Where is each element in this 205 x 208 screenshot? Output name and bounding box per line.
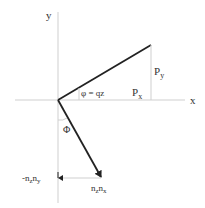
px-label: Px: [132, 86, 142, 101]
y-axis-label: y: [46, 9, 52, 21]
big-phi-arc: [58, 118, 67, 120]
x-axis-label: x: [190, 94, 196, 106]
diagram-canvas: y x Py Px φ = qz Φ -nzny nznx: [0, 0, 205, 208]
vector-diagram: y x Py Px φ = qz Φ -nzny nznx: [0, 0, 205, 208]
ny-component-label: -nzny: [22, 173, 41, 185]
big-phi-label: Φ: [63, 124, 70, 135]
nx-component-label: nznx: [91, 183, 107, 195]
n-vector: [58, 100, 101, 177]
phi-angle-label: φ = qz: [81, 88, 104, 98]
py-label: Py: [154, 65, 164, 80]
